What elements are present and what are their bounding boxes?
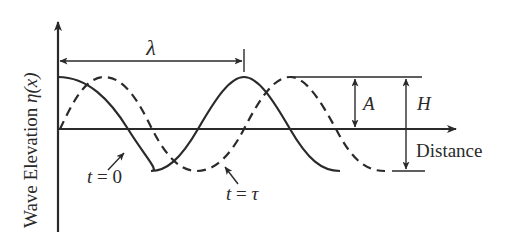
wave-curve-t0 xyxy=(58,77,340,171)
y-axis-label: Wave Elevation η(x) xyxy=(20,72,42,228)
t0-label: t = 0 xyxy=(87,166,122,187)
x-axis-label: Distance xyxy=(416,140,482,161)
wavelength-label: λ xyxy=(145,35,156,60)
wave-height-label: H xyxy=(416,93,432,114)
t-tau-label: t = τ xyxy=(226,183,260,204)
amplitude-label: A xyxy=(361,93,375,114)
y-axis-label-symbol: η(x) xyxy=(20,72,42,103)
t-tau-pointer-arrow xyxy=(225,167,238,184)
wave-elevation-diagram: λ A H Distance Wave Elevation η(x) t = 0… xyxy=(0,0,524,249)
y-axis-label-text: Wave Elevation xyxy=(20,103,41,228)
